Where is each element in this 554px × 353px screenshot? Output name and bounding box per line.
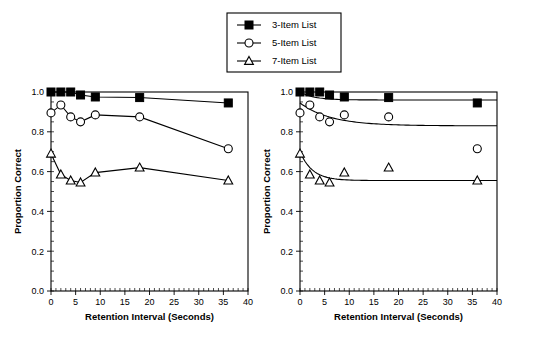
open-triangle-marker <box>296 149 305 157</box>
open-triangle-marker <box>384 163 393 171</box>
legend-entry-label: 7-Item List <box>272 55 317 66</box>
x-axis-title: Retention Interval (Seconds) <box>85 311 214 322</box>
series-7-item-list <box>296 149 497 186</box>
filled-square-marker <box>245 21 253 29</box>
open-circle-marker <box>306 101 314 109</box>
y-tick-label: 1.0 <box>31 87 44 97</box>
filled-square-marker <box>136 94 144 102</box>
series-fit-curve <box>300 152 497 181</box>
filled-square-marker <box>340 93 348 101</box>
filled-square-marker <box>77 91 85 99</box>
plot-panel-left: 0.00.20.40.60.81.00510152025303540Retent… <box>12 87 253 322</box>
filled-square-marker <box>385 94 393 102</box>
open-circle-marker <box>296 109 304 117</box>
x-tick-label: 30 <box>443 297 453 307</box>
x-axis-title: Retention Interval (Seconds) <box>334 311 463 322</box>
series-7-item-list <box>47 149 233 186</box>
open-circle-marker <box>316 113 324 121</box>
legend: 3-Item List5-Item List7-Item List <box>227 13 341 72</box>
open-triangle-marker <box>305 170 314 178</box>
x-tick-label: 30 <box>194 297 204 307</box>
legend-entry-7-item-list[interactable]: 7-Item List <box>237 55 317 66</box>
open-triangle-marker <box>473 176 482 184</box>
x-tick-label: 35 <box>218 297 228 307</box>
series-3-item-list <box>47 88 232 107</box>
legend-entry-label: 3-Item List <box>272 19 317 30</box>
y-tick-label: 0.0 <box>280 286 293 296</box>
filled-square-marker <box>91 93 99 101</box>
figure-svg: 0.00.20.40.60.81.00510152025303540Retent… <box>0 0 554 353</box>
series-5-item-list <box>296 101 497 153</box>
x-tick-label: 15 <box>120 297 130 307</box>
series-connecting-line <box>51 105 228 149</box>
open-circle-marker <box>67 113 75 121</box>
x-tick-label: 0 <box>297 297 302 307</box>
legend-entry-5-item-list[interactable]: 5-Item List <box>237 37 317 48</box>
y-axis-title: Proportion Correct <box>12 148 23 234</box>
filled-square-marker <box>296 88 304 96</box>
open-circle-marker <box>91 111 99 119</box>
filled-square-marker <box>473 99 481 107</box>
x-tick-label: 0 <box>48 297 53 307</box>
filled-square-marker <box>306 88 314 96</box>
plot-panel-right: 0.00.20.40.60.81.00510152025303540Retent… <box>261 87 502 322</box>
filled-square-marker <box>47 88 55 96</box>
figure-container: 0.00.20.40.60.81.00510152025303540Retent… <box>0 0 554 353</box>
x-tick-label: 5 <box>322 297 327 307</box>
y-tick-label: 0.2 <box>31 247 44 257</box>
y-tick-label: 1.0 <box>280 87 293 97</box>
legend-entry-3-item-list[interactable]: 3-Item List <box>237 19 317 30</box>
open-circle-marker <box>473 145 481 153</box>
open-circle-marker <box>57 101 65 109</box>
y-tick-label: 0.0 <box>31 286 44 296</box>
open-triangle-marker <box>66 176 75 184</box>
x-tick-label: 25 <box>418 297 428 307</box>
open-circle-marker <box>47 109 55 117</box>
y-tick-label: 0.2 <box>280 247 293 257</box>
x-tick-label: 5 <box>73 297 78 307</box>
x-tick-label: 10 <box>344 297 354 307</box>
series-3-item-list <box>296 88 497 107</box>
open-circle-marker <box>245 39 253 47</box>
filled-square-marker <box>316 88 324 96</box>
filled-square-marker <box>326 91 334 99</box>
y-tick-label: 0.4 <box>31 207 44 217</box>
x-tick-label: 10 <box>95 297 105 307</box>
y-tick-label: 0.8 <box>31 127 44 137</box>
open-triangle-marker <box>135 163 144 171</box>
y-axis-title: Proportion Correct <box>261 148 272 234</box>
open-circle-marker <box>326 118 334 126</box>
open-triangle-marker <box>315 176 324 184</box>
open-circle-marker <box>224 145 232 153</box>
open-circle-marker <box>77 118 85 126</box>
x-tick-label: 15 <box>369 297 379 307</box>
filled-square-marker <box>57 88 65 96</box>
open-triangle-marker <box>56 170 65 178</box>
y-tick-label: 0.6 <box>31 167 44 177</box>
y-tick-label: 0.8 <box>280 127 293 137</box>
open-triangle-marker <box>47 149 56 157</box>
series-5-item-list <box>47 101 232 153</box>
x-tick-label: 40 <box>492 297 502 307</box>
x-tick-label: 25 <box>169 297 179 307</box>
open-circle-marker <box>385 113 393 121</box>
y-tick-label: 0.6 <box>280 167 293 177</box>
legend-entry-label: 5-Item List <box>272 37 317 48</box>
open-triangle-marker <box>340 168 349 176</box>
y-tick-label: 0.4 <box>280 207 293 217</box>
open-circle-marker <box>136 113 144 121</box>
x-tick-label: 20 <box>393 297 403 307</box>
x-tick-label: 35 <box>467 297 477 307</box>
open-circle-marker <box>340 111 348 119</box>
x-tick-label: 20 <box>144 297 154 307</box>
open-triangle-marker <box>325 178 334 186</box>
filled-square-marker <box>67 88 75 96</box>
filled-square-marker <box>224 99 232 107</box>
x-tick-label: 40 <box>243 297 253 307</box>
